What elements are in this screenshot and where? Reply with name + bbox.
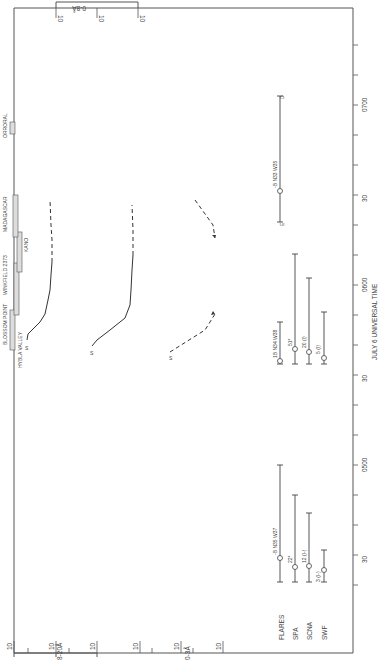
- panel-0-8A-axis: 10 10 10 0-8Å: [56, 2, 146, 23]
- tick-label: 10: [57, 15, 64, 23]
- panel-0-3A-axis: 10 10 10 0-3Å: [132, 640, 223, 660]
- x-tick-label: 30: [361, 194, 368, 202]
- flare-label: 1B N34 W38: [272, 329, 278, 358]
- x-axis-title: JULY 6 UNIVERSAL TIME: [371, 283, 378, 360]
- event-group-3: -B N33 W35 D E: [272, 95, 285, 226]
- start-marker: S: [169, 355, 173, 361]
- station-label: HYBLA VALLEY: [17, 331, 23, 368]
- tick-label: 10: [6, 642, 13, 650]
- row-label-flares: FLARES: [278, 614, 285, 640]
- row-label-scna: SCNA: [306, 621, 313, 640]
- tick-label: 10: [48, 642, 55, 650]
- station-label: KANO: [23, 238, 29, 252]
- flare-chart: 10 10 10 8-20Å 10 10 10 0-3Å 10 10 10 0-…: [0, 0, 385, 661]
- spa-label: 22*: [287, 555, 293, 563]
- station-label: WINKFIELD 2373: [2, 255, 8, 295]
- row-label-spa: SPA: [292, 627, 299, 640]
- station-coverage: HYBLA VALLEY BLOSSOM POINT WINKFIELD 237…: [2, 113, 29, 368]
- x-tick-label: 30: [361, 555, 368, 563]
- panel-label: 0-3Å: [183, 646, 191, 660]
- time-axis: 30 0500 30 0600 30 0700 JULY 6 UNIVERSAL…: [353, 45, 378, 585]
- tick-label: 10: [132, 642, 139, 650]
- row-label-swf: SWF: [321, 626, 328, 640]
- x-tick-label: 0600: [361, 277, 368, 292]
- flare-end-marker: D: [279, 95, 285, 99]
- station-label: ORRORAL: [2, 113, 8, 138]
- station-label: MADAGASCAR: [2, 196, 8, 232]
- panel-label: 8-20Å: [55, 642, 63, 660]
- tick-label: 10: [215, 642, 222, 650]
- station-label: BLOSSOM POINT: [2, 304, 8, 345]
- event-group-1: -B N35 W37 22* 12 (I-) 3 (I-): [272, 465, 327, 582]
- swf-label: 3 (I-): [315, 571, 321, 582]
- x-tick-label: 30: [361, 374, 368, 382]
- spa-label: 51*: [287, 338, 293, 346]
- event-row-labels: FLARES SPA SCNA SWF: [278, 614, 328, 640]
- panel-label: 0-8Å: [72, 5, 86, 13]
- tick-label: 10: [89, 642, 96, 650]
- tick-label: 10: [98, 15, 105, 23]
- flux-0-8A: S: [169, 200, 216, 361]
- panel-8-20A-axis: 10 10 10 8-20Å: [6, 641, 97, 660]
- scna-label: 20 (I): [301, 336, 307, 348]
- scna-label: 12 (I-): [301, 549, 307, 563]
- flare-start-marker: E: [279, 222, 285, 226]
- flare-label: -B N35 W37: [272, 528, 278, 555]
- x-tick-label: 0500: [361, 457, 368, 472]
- tick-label: 10: [173, 642, 180, 650]
- event-group-2: 1B N34 W38 51* 20 (I) 5 (I): [272, 254, 327, 364]
- flare-label: -B N33 W35: [272, 161, 278, 188]
- x-tick-label: 0700: [361, 97, 368, 112]
- start-marker: S: [90, 350, 94, 356]
- flux-0-3A: S: [90, 205, 133, 356]
- tick-label: 10: [139, 15, 146, 23]
- swf-label: 5 (I): [315, 345, 321, 354]
- start-marker: S: [25, 345, 29, 351]
- flux-8-20A: S: [25, 200, 52, 351]
